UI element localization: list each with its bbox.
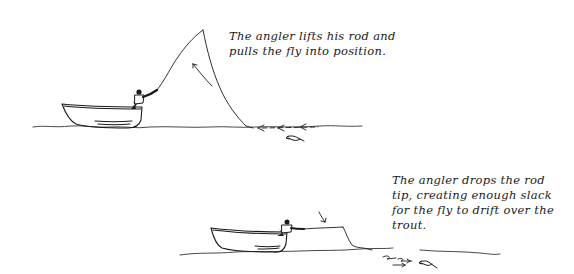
lift-arrow-icon bbox=[193, 64, 212, 86]
panel-lift-drawing bbox=[33, 30, 362, 141]
panel-drop-drawing bbox=[180, 212, 500, 268]
angler-icon bbox=[131, 89, 157, 109]
fishing-rod-icon bbox=[304, 227, 343, 229]
fishing-rod-icon bbox=[157, 30, 203, 90]
boat-icon bbox=[62, 104, 142, 128]
fishing-line-icon bbox=[203, 30, 253, 128]
slack-line-icon bbox=[343, 227, 372, 250]
fishing-illustration bbox=[0, 0, 574, 274]
drop-arrow-icon bbox=[319, 212, 326, 222]
drift-arrows-icon bbox=[383, 256, 412, 267]
boat-icon bbox=[211, 228, 287, 252]
trout-icon bbox=[286, 136, 304, 141]
pull-direction-arrows-icon bbox=[258, 124, 318, 131]
trout-icon bbox=[419, 261, 437, 268]
